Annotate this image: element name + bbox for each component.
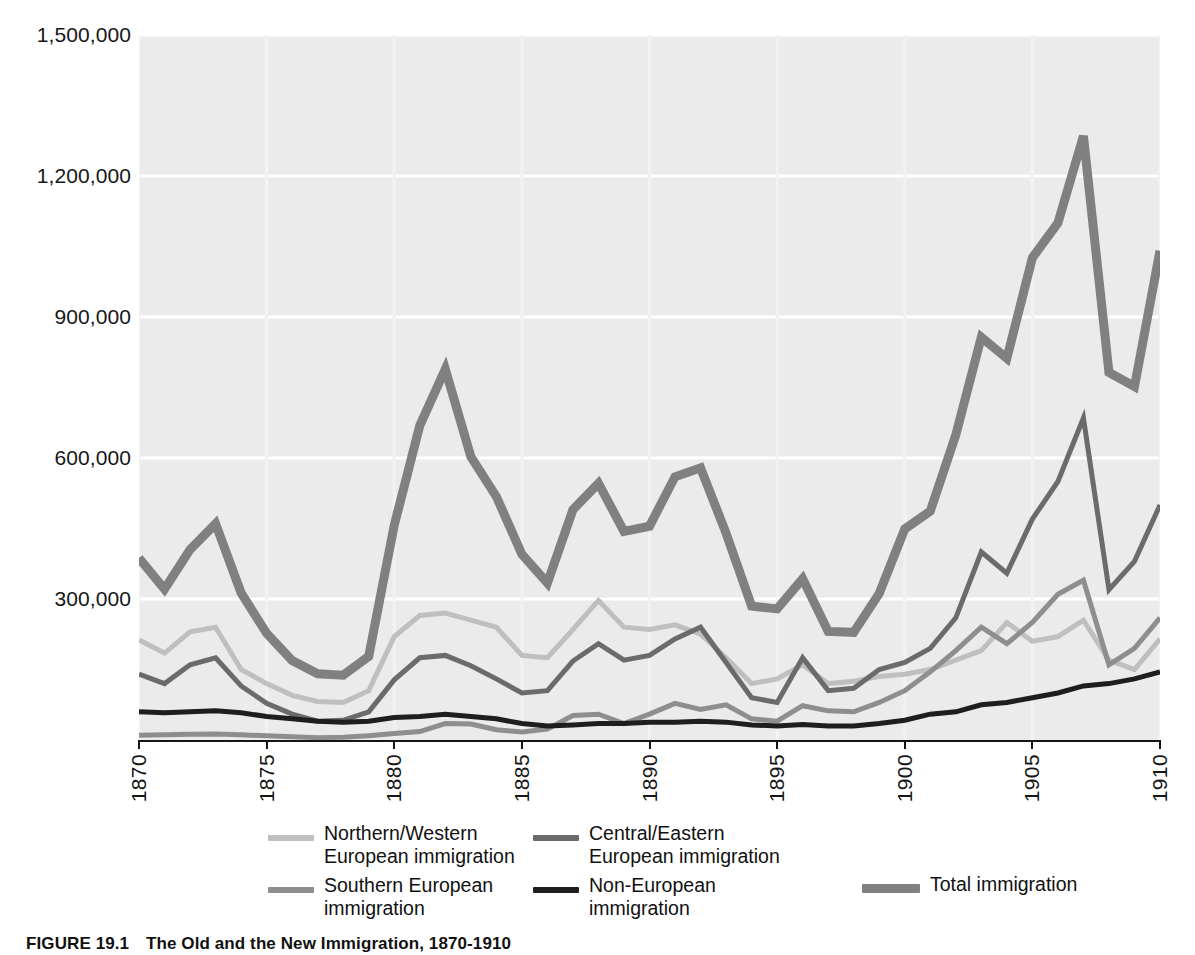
figure-caption: FIGURE 19.1 The Old and the New Immigrat…	[26, 934, 511, 954]
legend-swatch-central-eastern	[533, 835, 579, 841]
x-axis-label: 1905	[1021, 754, 1042, 802]
x-axis-label: 1890	[639, 754, 660, 802]
figure-caption-text: The Old and the New Immigration, 1870-19…	[146, 934, 511, 953]
figure-number: FIGURE 19.1	[26, 934, 129, 953]
legend-swatch-total	[862, 884, 920, 893]
legend-item-central-eastern: Central/Eastern European immigration	[533, 822, 803, 867]
figure-root: 1,500,0001,200,000900,000600,000300,000 …	[0, 0, 1195, 955]
x-axis-tick	[138, 740, 140, 749]
legend-label-northern-western: Northern/Western European immigration	[324, 822, 515, 867]
legend-item-non-european: Non-European immigration	[533, 874, 803, 919]
x-axis-label: 1880	[383, 754, 404, 802]
legend-swatch-non-european	[533, 887, 579, 893]
x-axis-tick	[393, 740, 395, 749]
y-axis-label: 900,000	[0, 305, 131, 329]
y-axis-label: 300,000	[0, 587, 131, 611]
x-axis-label: 1895	[766, 754, 787, 802]
x-axis-label: 1900	[894, 754, 915, 802]
legend-label-total: Total immigration	[930, 873, 1077, 896]
legend-item-northern-western: Northern/Western European immigration	[268, 822, 518, 867]
legend-swatch-northern-western	[268, 835, 314, 841]
chart-plot	[139, 35, 1160, 740]
x-axis-label: 1910	[1149, 754, 1170, 802]
x-axis-tick	[266, 740, 268, 749]
y-axis-label: 600,000	[0, 446, 131, 470]
y-axis-label: 1,500,000	[0, 23, 131, 47]
chart-container: 1,500,0001,200,000900,000600,000300,000 …	[0, 0, 1195, 810]
chart-legend: Northern/Western European immigration So…	[0, 818, 1195, 918]
legend-label-southern: Southern European immigration	[324, 874, 493, 919]
legend-swatch-southern	[268, 887, 314, 893]
legend-item-southern: Southern European immigration	[268, 874, 518, 919]
x-axis-tick	[776, 740, 778, 749]
x-axis-tick	[521, 740, 523, 749]
legend-label-central-eastern: Central/Eastern European immigration	[589, 822, 780, 867]
legend-label-non-european: Non-European immigration	[589, 874, 716, 919]
legend-item-total: Total immigration	[862, 873, 1162, 896]
x-axis-tick	[649, 740, 651, 749]
x-axis-tick	[904, 740, 906, 749]
x-axis-label: 1875	[256, 754, 277, 802]
x-axis-label: 1885	[511, 754, 532, 802]
x-axis-tick	[1031, 740, 1033, 749]
y-axis-label: 1,200,000	[0, 164, 131, 188]
x-axis-tick	[1159, 740, 1161, 749]
x-axis-label: 1870	[128, 754, 149, 802]
